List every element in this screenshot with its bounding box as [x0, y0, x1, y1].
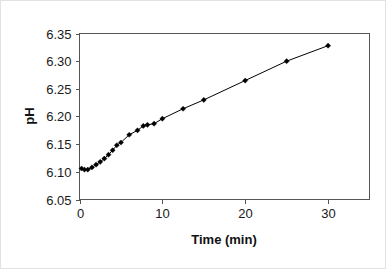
x-tick-label: 10 [155, 206, 169, 221]
data-point-marker [284, 59, 289, 64]
data-point-marker [145, 122, 150, 127]
data-point-marker [180, 106, 185, 111]
x-tick-label: 30 [321, 206, 335, 221]
y-tick-label: 6.20 [46, 109, 71, 124]
data-series-group [79, 43, 331, 172]
data-point-marker [243, 78, 248, 83]
x-tick-label: 20 [238, 206, 252, 221]
y-tick-label: 6.15 [46, 137, 71, 152]
y-axis-tick-labels: 6.056.106.156.206.256.306.35 [46, 27, 71, 208]
y-tick-label: 6.35 [46, 27, 71, 42]
x-tick-label: 0 [77, 206, 84, 221]
y-tick-label: 6.10 [46, 165, 71, 180]
x-axis-title-group: Time (min) [191, 232, 257, 247]
data-point-marker [325, 43, 330, 48]
chart-figure: 6.056.106.156.206.256.306.35 0102030 pH … [0, 0, 386, 269]
y-tick-label: 6.05 [46, 193, 71, 208]
plot-frame [80, 34, 370, 200]
y-axis-title-group: pH [22, 107, 37, 124]
ph-vs-time-chart: 6.056.106.156.206.256.306.35 0102030 pH … [1, 1, 386, 269]
y-axis-tick-marks [76, 35, 80, 201]
x-axis-title: Time (min) [191, 232, 257, 247]
data-point-marker [151, 121, 156, 126]
data-point-marker [201, 97, 206, 102]
y-axis-title: pH [22, 107, 37, 124]
series-markers [79, 43, 331, 172]
x-axis-tick-marks [81, 200, 329, 204]
data-point-marker [93, 162, 98, 167]
y-tick-label: 6.25 [46, 82, 71, 97]
y-tick-label: 6.30 [46, 54, 71, 69]
series-line [82, 46, 329, 170]
x-axis-tick-labels: 0102030 [77, 206, 336, 221]
data-point-marker [160, 116, 165, 121]
